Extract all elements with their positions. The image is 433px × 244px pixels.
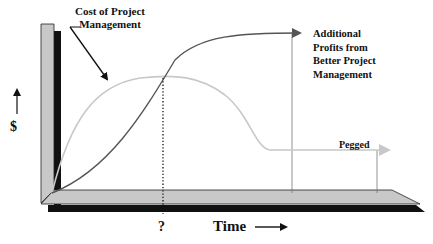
profit-curve	[52, 33, 300, 193]
x-axis-label: Time	[213, 218, 246, 235]
profit-label-line3: Better Project	[313, 54, 376, 68]
profit-label-line4: Management	[313, 68, 376, 82]
pegged-label: Pegged	[339, 139, 370, 150]
y-axis-bar	[41, 24, 61, 205]
x-axis-bar	[41, 190, 425, 212]
cost-pointer-arrow	[70, 27, 107, 79]
profit-label-line1: Additional	[313, 27, 376, 41]
cost-curve	[52, 76, 388, 193]
cost-label-line2: Management	[70, 18, 150, 31]
crossover-question-mark: ?	[158, 219, 165, 235]
y-axis-label: $	[10, 119, 17, 135]
profit-label-line2: Profits from	[313, 41, 376, 55]
cost-label: Cost of Project Management	[70, 5, 150, 31]
cost-label-line1: Cost of Project	[70, 5, 150, 18]
profit-label: Additional Profits from Better Project M…	[313, 27, 376, 81]
